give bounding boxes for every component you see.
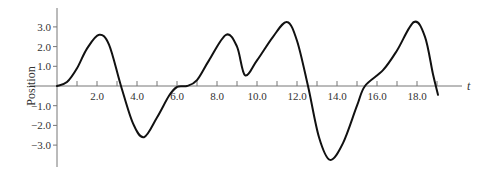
x-tick-label: 12.0 <box>287 90 307 102</box>
x-tick-label: 4.0 <box>130 90 144 102</box>
x-tick-label: 18.0 <box>407 90 427 102</box>
y-tick-label: 2.0 <box>37 41 51 53</box>
x-tick-label: 2.0 <box>90 90 104 102</box>
position-vs-time-chart: 3.02.01.0−1.0−2.0−3.0 2.04.06.08.010.012… <box>0 0 493 177</box>
y-axis-label: Position <box>24 66 38 105</box>
x-tick-label: 8.0 <box>210 90 224 102</box>
y-tick-label: −3.0 <box>31 139 51 151</box>
x-axis: 2.04.06.08.010.012.014.016.018.0 <box>30 81 462 102</box>
y-tick-label: 1.0 <box>37 60 51 72</box>
x-axis-label: t <box>467 79 471 93</box>
x-tick-label: 16.0 <box>367 90 387 102</box>
y-tick-label: 3.0 <box>37 21 51 33</box>
y-tick-label: −2.0 <box>31 119 51 131</box>
x-tick-label: 10.0 <box>247 90 267 102</box>
x-tick-label: 14.0 <box>327 90 347 102</box>
